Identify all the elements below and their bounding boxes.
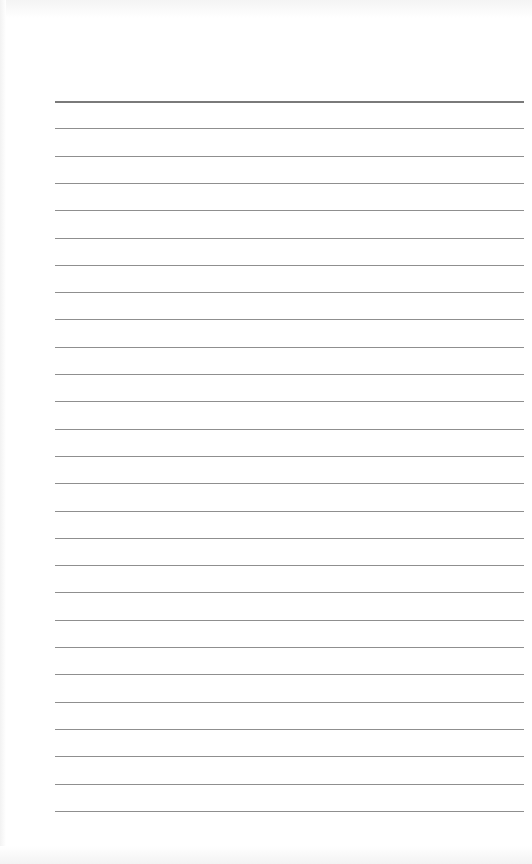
rule-line: [55, 210, 524, 211]
header-rule-line: [55, 101, 524, 103]
rule-line: [55, 265, 524, 266]
rule-line: [55, 319, 524, 320]
rule-line: [55, 811, 524, 812]
rule-line: [55, 374, 524, 375]
rule-line: [55, 702, 524, 703]
rule-line: [55, 429, 524, 430]
rule-line: [55, 756, 524, 757]
rule-line: [55, 292, 524, 293]
rule-line: [55, 620, 524, 621]
rule-line: [55, 238, 524, 239]
rule-line: [55, 511, 524, 512]
rule-line: [55, 128, 524, 129]
rule-line: [55, 456, 524, 457]
ruled-lines: [0, 0, 532, 864]
rule-line: [55, 729, 524, 730]
lined-paper-page: [0, 0, 532, 864]
rule-line: [55, 784, 524, 785]
rule-line: [55, 538, 524, 539]
rule-line: [55, 401, 524, 402]
rule-line: [55, 347, 524, 348]
rule-line: [55, 565, 524, 566]
rule-line: [55, 483, 524, 484]
rule-line: [55, 674, 524, 675]
rule-line: [55, 592, 524, 593]
rule-line: [55, 156, 524, 157]
rule-line: [55, 183, 524, 184]
rule-line: [55, 647, 524, 648]
